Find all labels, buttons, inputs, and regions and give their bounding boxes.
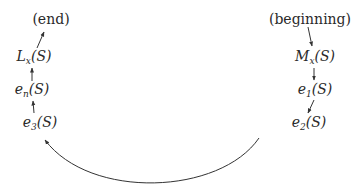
node-mx-base: M (295, 48, 309, 64)
node-en-arg: (S) (29, 81, 50, 97)
node-beginning: (beginning) (269, 11, 351, 27)
node-mx-arg: (S) (314, 48, 335, 64)
node-end: (end) (32, 11, 69, 27)
node-mx: Mx(S) (295, 48, 335, 69)
arrow-lx-to-end (37, 32, 44, 48)
node-en: en(S) (15, 81, 50, 102)
arrow-e1-to-e2 (308, 100, 314, 113)
arrow-e2-to-e3 (45, 138, 259, 183)
node-e2: e2(S) (292, 114, 327, 135)
arrow-e3-to-en (33, 101, 34, 113)
node-lx-base: L (17, 48, 26, 64)
node-lx: Lx(S) (17, 48, 52, 69)
arrow-beginning-to-mx (308, 27, 312, 46)
node-e3-arg: (S) (37, 114, 58, 130)
node-e1-arg: (S) (312, 81, 333, 97)
node-e2-arg: (S) (306, 114, 327, 130)
node-lx-arg: (S) (31, 48, 52, 64)
node-e3: e3(S) (23, 114, 58, 135)
node-e1: e1(S) (298, 81, 333, 102)
